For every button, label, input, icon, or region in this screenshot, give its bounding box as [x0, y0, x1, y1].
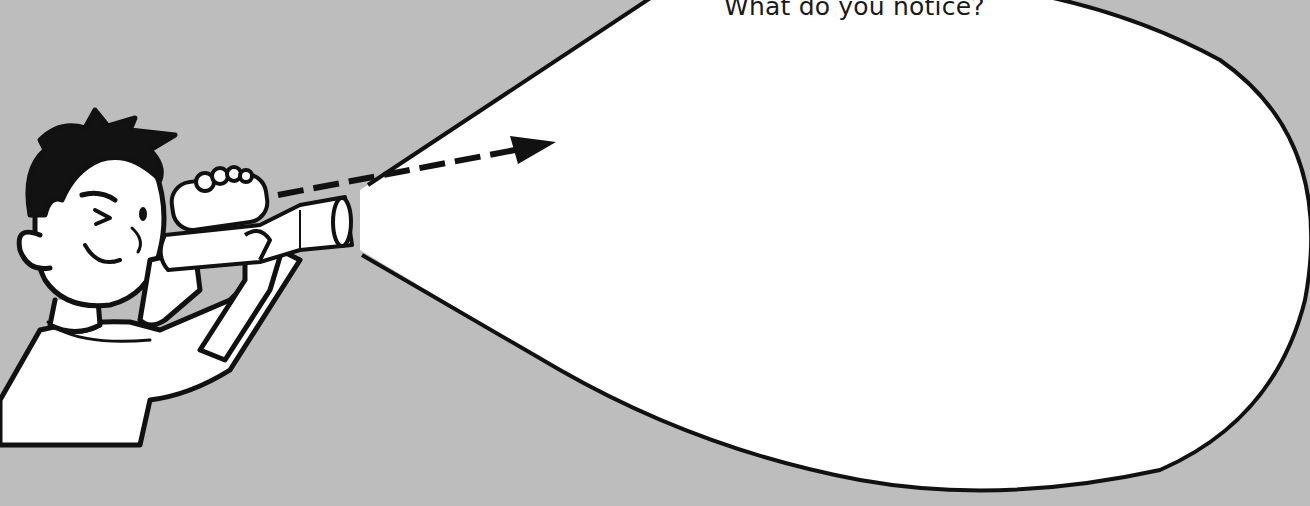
- prompt-text: What do you notice?: [724, 0, 985, 21]
- illustration-scene: [0, 0, 1310, 506]
- binoculars: [161, 167, 352, 270]
- boy-figure: [0, 110, 300, 445]
- view-cone: [360, 0, 1310, 490]
